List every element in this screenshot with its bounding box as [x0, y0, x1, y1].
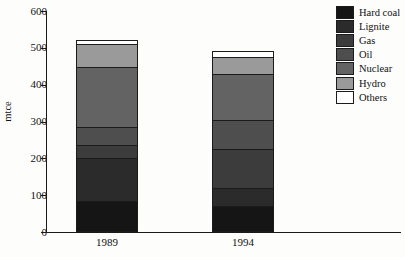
y-axis-tick: 100: [0, 190, 47, 201]
legend-item-lignite[interactable]: Lignite: [336, 19, 402, 33]
legend-item-hydro[interactable]: Hydro: [336, 76, 402, 90]
bar-segment-hydro: [77, 45, 137, 68]
legend-swatch-icon: [336, 91, 354, 104]
legend-swatch-icon: [336, 20, 354, 33]
legend-swatch-icon: [336, 77, 354, 90]
legend-item-label: Nuclear: [359, 63, 392, 74]
y-axis-tick: 200: [0, 153, 47, 164]
legend-swatch-icon: [336, 6, 354, 19]
y-axis-tick: 0: [0, 227, 47, 238]
bar-segment-lignite: [213, 189, 273, 207]
legend-swatch-icon: [336, 62, 354, 75]
legend-swatch-icon: [336, 34, 354, 47]
bar-segment-oil: [213, 121, 273, 150]
y-axis-tick-mark: [41, 232, 47, 233]
legend-item-label: Hydro: [359, 78, 386, 89]
bar-segment-nuclear: [77, 68, 137, 128]
y-axis-title: mtce: [2, 89, 13, 135]
legend-item-others[interactable]: Others: [336, 90, 402, 104]
bar-segment-lignite: [77, 159, 137, 201]
bar-1989: [76, 40, 138, 232]
legend-item-label: Oil: [359, 49, 372, 60]
chart-legend: Hard coalLigniteGasOilNuclearHydroOthers: [336, 5, 402, 104]
legend-swatch-icon: [336, 48, 354, 61]
legend-item-gas[interactable]: Gas: [336, 33, 402, 47]
bar-segment-hard-coal: [77, 202, 137, 231]
x-axis-label-1989: 1989: [67, 236, 147, 248]
bar-segment-hard-coal: [213, 207, 273, 231]
stacked-bar-chart: mtce 0100200300400500600 19891994 Hard c…: [0, 0, 405, 257]
bar-segment-gas: [213, 150, 273, 189]
legend-item-oil[interactable]: Oil: [336, 48, 402, 62]
y-axis-tick-mark: [41, 158, 47, 159]
y-axis-tick: 400: [0, 79, 47, 90]
bar-segment-oil: [77, 128, 137, 146]
legend-item-hard-coal[interactable]: Hard coal: [336, 5, 402, 19]
bar-1994: [212, 51, 274, 232]
bar-segment-nuclear: [213, 75, 273, 121]
y-axis-tick: 600: [0, 6, 47, 17]
legend-item-label: Hard coal: [359, 7, 400, 18]
legend-item-nuclear[interactable]: Nuclear: [336, 62, 402, 76]
y-axis-tick-mark: [41, 85, 47, 86]
y-axis-tick: 300: [0, 116, 47, 127]
y-axis-tick-mark: [41, 122, 47, 123]
x-axis-label-1994: 1994: [203, 236, 283, 248]
y-axis-tick-mark: [41, 11, 47, 12]
legend-item-label: Gas: [359, 35, 375, 46]
bar-segment-hydro: [213, 58, 273, 75]
legend-item-label: Others: [359, 92, 387, 103]
y-axis-tick-mark: [41, 195, 47, 196]
bar-segment-gas: [77, 146, 137, 159]
y-axis-tick-mark: [41, 48, 47, 49]
y-axis-tick: 500: [0, 42, 47, 53]
x-axis-line: [46, 232, 401, 233]
legend-item-label: Lignite: [359, 21, 389, 32]
